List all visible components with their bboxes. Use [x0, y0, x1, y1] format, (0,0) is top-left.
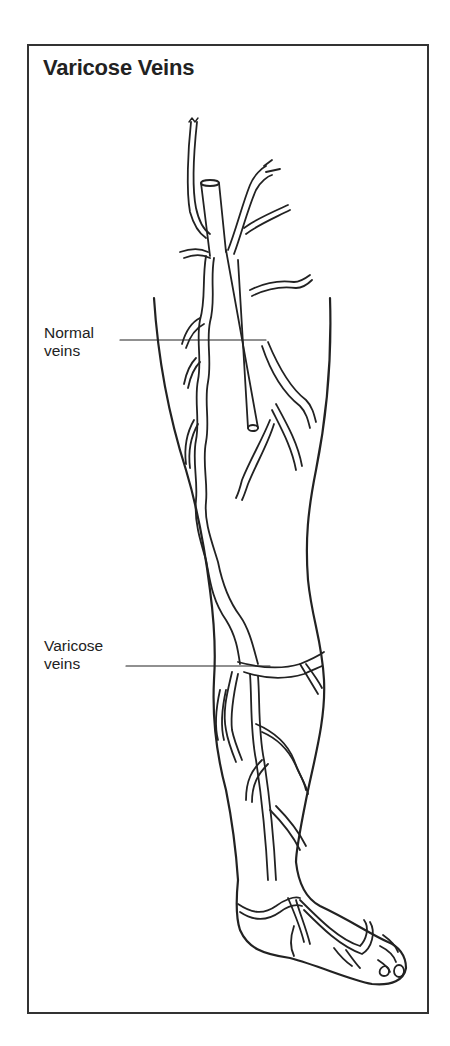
normal-veins-icon [180, 118, 316, 500]
leg-illustration [0, 0, 450, 1046]
leg-outline-icon [154, 298, 406, 984]
saphenous-vein-icon [185, 256, 258, 664]
